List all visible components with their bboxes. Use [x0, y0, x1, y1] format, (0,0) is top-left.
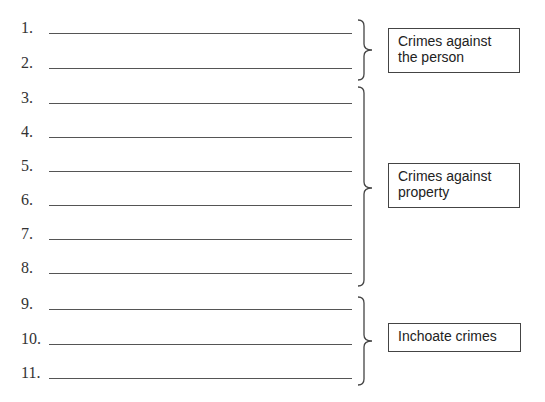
category-box-inchoate: Inchoate crimes — [388, 323, 521, 352]
brace-icon — [358, 87, 372, 286]
category-label: property — [398, 184, 510, 200]
brace-icon — [358, 297, 372, 385]
category-label: Crimes against — [398, 33, 510, 49]
category-label: the person — [398, 49, 510, 65]
category-label: Crimes against — [398, 168, 510, 184]
category-box-property: Crimes against property — [388, 163, 520, 208]
category-box-person: Crimes against the person — [388, 28, 520, 73]
category-label: Inchoate crimes — [398, 328, 511, 344]
brace-icon — [358, 20, 372, 80]
